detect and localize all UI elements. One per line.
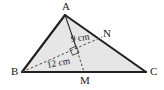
point-label-n: N — [103, 28, 111, 39]
vertex-label-c: C — [150, 66, 157, 77]
geometry-figure: A B C M N 9 cm 12 cm — [0, 0, 164, 90]
vertex-label-b: B — [11, 66, 18, 77]
vertex-label-a: A — [62, 1, 70, 12]
point-label-m: M — [80, 75, 90, 86]
